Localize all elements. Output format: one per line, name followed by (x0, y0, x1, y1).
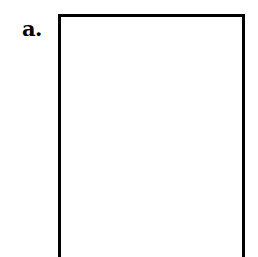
panel-frame (58, 14, 245, 257)
panel-label: a. (22, 17, 42, 41)
